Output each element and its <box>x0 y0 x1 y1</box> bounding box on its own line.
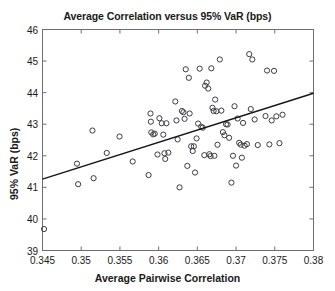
axes-frame <box>43 30 314 251</box>
trendline <box>43 93 314 179</box>
x-tick-label: 0.35 <box>71 255 90 266</box>
data-point <box>213 97 218 102</box>
data-point <box>232 104 237 109</box>
data-point <box>173 99 178 104</box>
data-point <box>146 172 151 177</box>
x-tick-label: 0.37 <box>226 255 245 266</box>
data-point <box>185 163 190 168</box>
plot-canvas <box>0 0 335 291</box>
data-point <box>183 67 188 72</box>
data-point <box>181 110 186 115</box>
x-axis-label: Average Pairwise Correlation <box>0 272 335 284</box>
data-point <box>197 66 202 71</box>
data-point <box>230 153 235 158</box>
scatter-plot-figure: Average Correlation versus 95% VaR (bps)… <box>0 0 335 291</box>
data-point <box>91 176 96 181</box>
data-point <box>212 153 217 158</box>
x-tick-label: 0.36 <box>149 255 168 266</box>
x-axis-ticks <box>43 30 314 251</box>
y-tick-label: 40 <box>16 213 38 224</box>
data-point <box>263 113 268 118</box>
data-point <box>277 141 282 146</box>
data-point <box>90 128 95 133</box>
data-point <box>280 112 285 117</box>
data-point <box>271 68 276 73</box>
data-point <box>148 111 153 116</box>
data-point <box>76 182 81 187</box>
data-point <box>206 86 211 91</box>
data-point <box>274 114 279 119</box>
data-point <box>240 120 245 125</box>
x-tick-label: 0.375 <box>262 255 287 266</box>
x-tick-label: 0.365 <box>185 255 210 266</box>
data-point <box>187 111 192 116</box>
x-tick-label: 0.38 <box>304 255 323 266</box>
data-point <box>157 116 162 121</box>
y-tick-label: 44 <box>16 87 38 98</box>
data-point <box>177 185 182 190</box>
data-point <box>186 75 191 80</box>
data-point <box>163 156 168 161</box>
y-tick-label: 45 <box>16 56 38 67</box>
data-point <box>217 57 222 62</box>
x-tick-label: 0.355 <box>107 255 132 266</box>
data-point <box>74 161 79 166</box>
data-point <box>248 106 253 111</box>
data-point <box>155 152 160 157</box>
data-point <box>252 117 257 122</box>
y-axis-label: 95% VaR (bps) <box>8 128 20 200</box>
data-point <box>196 121 201 126</box>
data-point <box>130 159 135 164</box>
y-axis-ticks <box>43 30 314 251</box>
data-point <box>104 150 109 155</box>
data-point <box>239 155 244 160</box>
data-point <box>215 142 220 147</box>
data-point <box>247 52 252 57</box>
data-point <box>161 132 166 137</box>
data-point <box>250 57 255 62</box>
data-point <box>233 163 238 168</box>
data-point <box>117 134 122 139</box>
data-point <box>269 118 274 123</box>
data-point <box>202 153 207 158</box>
data-point <box>204 80 209 85</box>
data-point <box>267 142 272 147</box>
data-point <box>179 108 184 113</box>
data-point <box>227 135 232 140</box>
x-tick-label: 0.345 <box>30 255 55 266</box>
data-point <box>148 119 153 124</box>
data-point <box>264 68 269 73</box>
data-point <box>192 170 197 175</box>
data-point <box>220 130 225 135</box>
axes-box <box>43 30 314 251</box>
data-point <box>174 118 179 123</box>
data-point <box>203 83 208 88</box>
y-tick-label: 46 <box>16 24 38 35</box>
data-point <box>194 136 199 141</box>
data-point <box>255 142 260 147</box>
data-point <box>219 108 224 113</box>
data-point <box>229 180 234 185</box>
data-point <box>182 116 187 121</box>
data-point <box>209 66 214 71</box>
